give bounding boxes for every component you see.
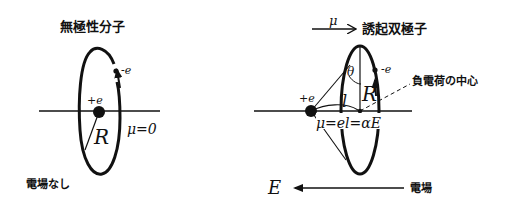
nucleus-label: +e: [299, 92, 315, 105]
angle-label: θ: [347, 65, 355, 79]
distance-line: [311, 105, 358, 111]
dipole-zero-label: μ=0: [127, 121, 157, 137]
distance-label: l: [342, 92, 347, 111]
electron-label: -e: [381, 63, 392, 76]
field-symbol: E: [267, 177, 281, 198]
electron-dot: [113, 68, 118, 73]
induced-dipole-symbol: μ: [329, 13, 337, 28]
no-field-label: 電場なし: [26, 177, 70, 191]
induced-dipole-label: 誘起双極子: [362, 21, 427, 36]
left-panel-nonpolar-molecule: 無極性分子 -e +e R μ=0 電場なし: [26, 19, 160, 191]
dipole-equation: μ=el=αE: [316, 115, 381, 131]
radius-label: R: [361, 82, 377, 106]
electric-field-label: 電場: [410, 181, 432, 195]
electron-dot: [372, 67, 377, 72]
right-panel-induced-dipole: μ 誘起双極子 +e θ R l 負電荷の中心 -e: [254, 13, 478, 198]
electron-label: -e: [121, 64, 132, 77]
radius-label: R: [93, 125, 109, 149]
nonpolar-molecule-title: 無極性分子: [60, 19, 125, 34]
negative-charge-center-label: 負電荷の中心: [412, 74, 478, 88]
polarization-diagram: 無極性分子 -e +e R μ=0 電場なし μ 誘起双極子: [0, 0, 508, 214]
nucleus-label: +e: [87, 94, 103, 107]
